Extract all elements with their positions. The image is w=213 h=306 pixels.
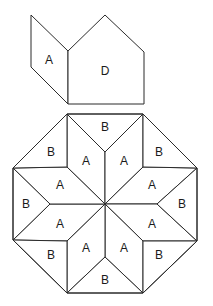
rhombus-a-1-label: A (82, 154, 90, 168)
rhombus-a-3-label: A (148, 178, 156, 192)
rhombus-a-7-label: A (56, 217, 64, 231)
upper-pieces: AD (31, 15, 144, 104)
rhombus-a-6-label: A (82, 241, 90, 255)
rhombus-a-4-label: A (148, 217, 156, 231)
rhombus-a-5-label: A (120, 241, 128, 255)
triangle-b-1-label: B (101, 120, 109, 134)
triangle-b-3-label: B (178, 197, 186, 211)
piece-A: A (31, 15, 68, 104)
triangle-b-4-label: B (155, 248, 163, 262)
triangle-b-5-label: B (101, 273, 109, 287)
piece-D: D (68, 15, 144, 104)
piece-D-label: D (101, 64, 110, 78)
piece-A-label: A (45, 53, 53, 67)
piece-D-shape (68, 15, 144, 104)
tiling-diagram: AD AAAAAAAA BBBBBBBB (0, 0, 213, 306)
rhombus-a-8-label: A (56, 178, 64, 192)
triangle-b-2-label: B (155, 145, 163, 159)
triangle-b-8-label: B (47, 145, 55, 159)
rhombus-a-2-label: A (120, 154, 128, 168)
octagon-tiling: AAAAAAAA BBBBBBBB (13, 114, 197, 293)
triangle-b-7-label: B (22, 197, 30, 211)
triangle-b-6-label: B (47, 248, 55, 262)
